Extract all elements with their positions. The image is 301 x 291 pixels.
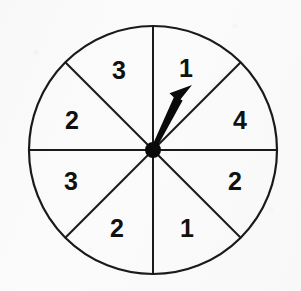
sector-label-3-top: 3 [112,56,126,84]
sector-label-2-bottom: 2 [110,214,124,242]
sector-label-2-left-upper: 2 [65,106,79,134]
sector-label-3-left-lower: 3 [64,167,78,195]
arrow-hub [145,142,161,158]
sector-label-2-right-lower: 2 [228,167,242,195]
spinner-figure: 1 4 2 1 2 3 2 3 [0,0,301,291]
spinner-wheel-graphic[interactable]: 1 4 2 1 2 3 2 3 [0,0,301,291]
sector-label-1-top: 1 [179,54,193,82]
sector-label-1-bottom: 1 [180,214,194,242]
sector-label-4-right-upper: 4 [233,106,247,134]
